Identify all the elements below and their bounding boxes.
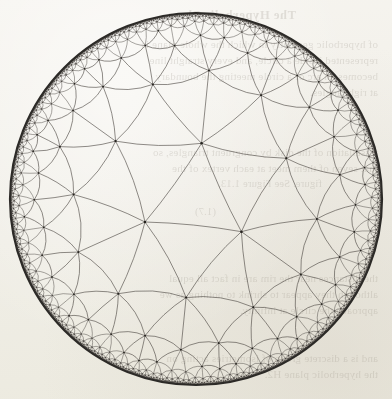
geodesic-arc — [188, 15, 190, 18]
geodesic-arc — [115, 35, 116, 41]
geodesic-arc — [177, 16, 179, 20]
geodesic-arc — [103, 84, 153, 89]
geodesic-arc — [334, 121, 351, 136]
geodesic-arc — [15, 173, 21, 174]
geodesic-arc — [200, 35, 224, 39]
geodesic-arc — [317, 219, 354, 232]
geodesic-arc — [110, 334, 112, 352]
geodesic-arc — [375, 223, 378, 225]
geodesic-arc — [30, 255, 42, 263]
geodesic-arc — [74, 252, 80, 294]
geodesic-arc — [286, 158, 317, 219]
geodesic-arc — [200, 21, 203, 35]
geodesic-arc — [46, 296, 53, 301]
tiling-vertex-dot — [296, 75, 298, 77]
geodesic-arc — [251, 307, 253, 348]
geodesic-arc — [219, 307, 254, 343]
geodesic-arc — [27, 135, 37, 141]
tiling-vertex-dot — [218, 342, 220, 344]
geodesic-arc — [14, 222, 18, 224]
geodesic-arc — [20, 238, 21, 244]
geodesic-arc — [20, 243, 28, 244]
geodesic-arc — [186, 298, 219, 344]
geodesic-arc — [373, 175, 378, 178]
geodesic-arc — [98, 48, 107, 50]
geodesic-arc — [338, 98, 342, 111]
geodesic-arc — [355, 134, 357, 151]
geodesic-arc — [98, 49, 99, 60]
tiling-vertex-dot — [59, 146, 61, 148]
geodesic-arc — [19, 200, 34, 206]
geodesic-arc — [229, 20, 233, 25]
geodesic-arc — [74, 195, 81, 253]
geodesic-arc — [78, 252, 118, 294]
geodesic-arc — [214, 18, 215, 25]
geodesic-arc — [365, 185, 375, 189]
tiling-vertex-dot — [285, 157, 287, 159]
geodesic-arc — [43, 289, 44, 296]
geodesic-arc — [92, 338, 100, 347]
geodesic-arc — [20, 145, 23, 147]
geodesic-arc — [66, 75, 74, 84]
geodesic-arc — [266, 42, 276, 59]
geodesic-arc — [334, 257, 339, 285]
geodesic-arc — [121, 58, 153, 84]
geodesic-arc — [66, 316, 69, 325]
geodesic-arc — [172, 370, 173, 379]
geodesic-arc — [74, 294, 88, 319]
geodesic-arc — [350, 287, 356, 288]
geodesic-arc — [73, 111, 116, 142]
geodesic-arc — [88, 320, 111, 335]
tiling-vertex-dot — [247, 52, 249, 54]
geodesic-arc — [69, 67, 73, 71]
geodesic-arc — [322, 304, 329, 317]
geodesic-arc — [186, 297, 253, 308]
geodesic-arc — [236, 364, 244, 372]
geodesic-arc — [133, 361, 139, 369]
geodesic-arc — [351, 108, 355, 111]
geodesic-arc — [241, 219, 316, 232]
geodesic-arc — [74, 141, 116, 194]
geodesic-arc — [364, 168, 374, 169]
geodesic-arc — [99, 48, 107, 60]
geodesic-arc — [13, 196, 19, 197]
geodesic-arc — [282, 354, 283, 360]
tiling-vertex-dot — [73, 194, 75, 196]
geodesic-arc — [252, 348, 261, 363]
geodesic-arc — [29, 243, 43, 256]
geodesic-arc — [103, 87, 116, 142]
geodesic-arc — [19, 196, 20, 206]
geodesic-arc — [137, 32, 146, 45]
tiling-vertex-dot — [309, 106, 311, 108]
geodesic-arc — [184, 379, 189, 380]
geodesic-arc — [19, 196, 34, 200]
geodesic-arc — [153, 71, 209, 85]
geodesic-arc — [279, 38, 283, 43]
geodesic-arc — [110, 351, 124, 353]
geodesic-arc — [184, 372, 186, 380]
geodesic-arc — [73, 69, 85, 71]
geodesic-arc — [181, 350, 186, 372]
geodesic-arc — [372, 207, 378, 208]
geodesic-arc — [15, 234, 17, 236]
geodesic-arc — [73, 70, 75, 83]
geodesic-arc — [69, 294, 74, 316]
geodesic-arc — [357, 151, 369, 156]
tiling-vertex-dot — [333, 136, 335, 138]
geodesic-arc — [17, 229, 24, 230]
geodesic-arc — [248, 34, 255, 53]
tiling-vertex-dot — [201, 366, 203, 368]
geodesic-arc — [59, 307, 69, 316]
geodesic-arc — [202, 71, 209, 144]
geodesic-arc — [356, 205, 373, 208]
geodesic-arc — [282, 354, 286, 358]
geodesic-arc — [220, 369, 224, 378]
geodesic-arc — [224, 23, 225, 38]
geodesic-arc — [109, 359, 115, 360]
tiling-vertex-dot — [51, 276, 53, 278]
geodesic-arc — [111, 294, 118, 335]
geodesic-arc — [27, 134, 37, 135]
geodesic-arc — [30, 128, 37, 135]
geodesic-arc — [332, 137, 339, 175]
geodesic-arc — [357, 130, 364, 135]
